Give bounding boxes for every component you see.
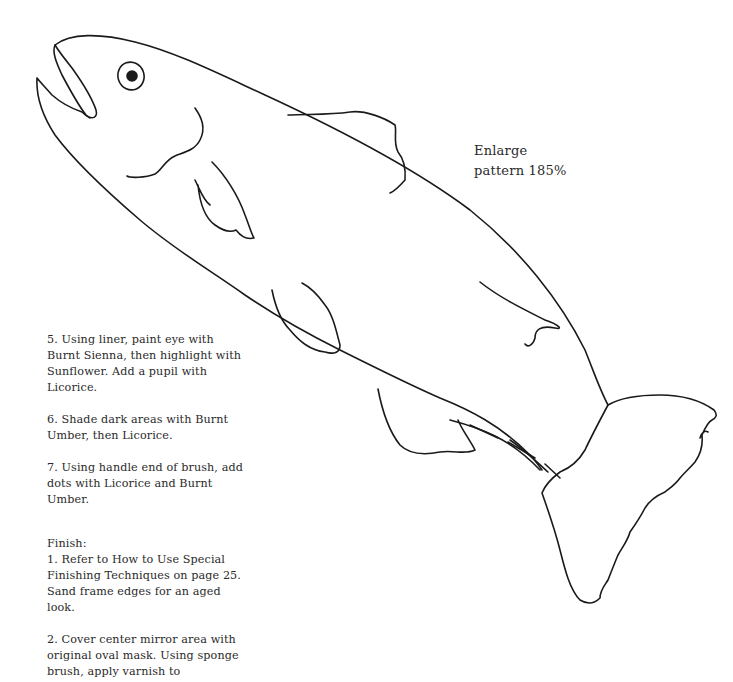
fish-adipose-fin: [480, 282, 559, 346]
step-5-text: 5. Using liner, paint eye with Burnt Sie…: [47, 332, 247, 396]
fish-eye-pupil: [127, 71, 137, 81]
finish-heading: Finish:: [47, 536, 247, 552]
enlarge-note-line1: Enlarge: [474, 141, 567, 161]
fish-pectoral-fin: [195, 162, 254, 238]
fish-gill: [127, 108, 203, 177]
enlarge-note-line2: pattern 185%: [474, 161, 567, 181]
enlarge-pattern-note: Enlarge pattern 185%: [474, 141, 567, 181]
step-6-text: 6. Shade dark areas with Burnt Umber, th…: [47, 412, 247, 444]
painting-instructions: 5. Using liner, paint eye with Burnt Sie…: [47, 332, 247, 682]
fish-ventral-fin: [272, 283, 340, 353]
fish-peduncle-line: [450, 420, 548, 472]
fish-anal-fin: [378, 389, 475, 454]
finish-step-1-text: 1. Refer to How to Use Special Finishing…: [47, 552, 247, 616]
fish-upper-jaw: [54, 45, 96, 118]
finish-step-2-text: 2. Cover center mirror area with origina…: [47, 632, 247, 680]
fish-tail-fin: [542, 395, 716, 603]
fish-dorsal-fin: [288, 112, 405, 193]
step-7-text: 7. Using handle end of brush, add dots w…: [47, 460, 247, 508]
